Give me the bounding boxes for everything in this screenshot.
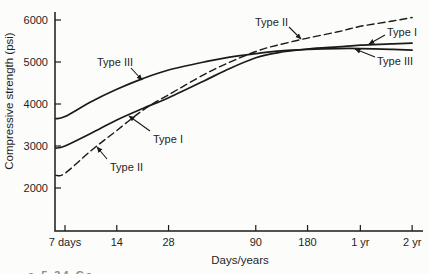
annotation-label-type-i: Type I — [153, 133, 183, 145]
chart-svg: 200030004000500060007 days1428901801 yr2… — [0, 0, 429, 274]
annotation-label-type-i: Type I — [387, 26, 417, 38]
annotation-arrow-type-iii — [131, 68, 142, 80]
y-tick-label: 3000 — [24, 140, 48, 152]
x-tick-label: 1 yr — [351, 236, 370, 248]
x-tick-label: 7 days — [49, 236, 82, 248]
x-tick-label: 28 — [162, 236, 174, 248]
annotation-arrow-type-i — [369, 35, 385, 44]
annotation-label-type-ii: Type II — [110, 161, 143, 173]
axes-layer: 200030004000500060007 days1428901801 yr2… — [24, 12, 423, 248]
caption-fragment: e 5.34 Co — [28, 269, 188, 274]
y-tick-label: 4000 — [24, 98, 48, 110]
annotation-label-type-iii: Type III — [377, 55, 413, 67]
annotation-label-type-iii: Type III — [97, 56, 133, 68]
annotation-layer: Type IIIType IType IIType IIType IType I… — [97, 16, 417, 173]
y-tick-label: 2000 — [24, 182, 48, 194]
x-tick-label: 2 yr — [403, 236, 422, 248]
x-tick-label: 14 — [111, 236, 123, 248]
curve-type-ii — [56, 18, 412, 176]
y-tick-label: 5000 — [24, 56, 48, 68]
annotation-arrow-type-iii — [355, 49, 375, 57]
x-axis-title: Days/years — [211, 254, 269, 266]
annotation-arrow-type-ii — [289, 27, 301, 39]
figure-container: 200030004000500060007 days1428901801 yr2… — [0, 0, 429, 274]
annotation-arrow-type-ii — [97, 147, 107, 159]
annotation-label-type-ii: Type II — [255, 16, 288, 28]
y-tick-label: 6000 — [24, 14, 48, 26]
y-axis-title: Compressive strength (psi) — [3, 32, 15, 170]
x-tick-label: 90 — [250, 236, 262, 248]
annotation-arrow-type-i — [129, 116, 150, 131]
x-tick-label: 180 — [298, 236, 316, 248]
series-layer — [56, 18, 412, 176]
